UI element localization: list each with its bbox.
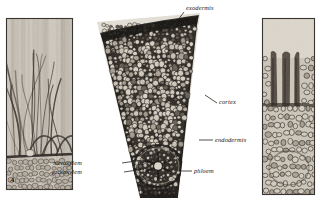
label-protoxylem: protoxylem [38, 169, 82, 175]
label-exodermis: exodermis [186, 5, 214, 11]
panel-c [261, 18, 320, 203]
figure-plate: exodermiscortexendodermisphloemmetaxylem… [0, 0, 322, 214]
label-phloem: phloem [194, 168, 214, 174]
panel-a-corner-letter: A [10, 176, 15, 184]
label-cortex: cortex [219, 99, 236, 105]
label-endodermis: endodermis [215, 137, 246, 143]
label-metaxylem: metaxylem [38, 160, 82, 166]
